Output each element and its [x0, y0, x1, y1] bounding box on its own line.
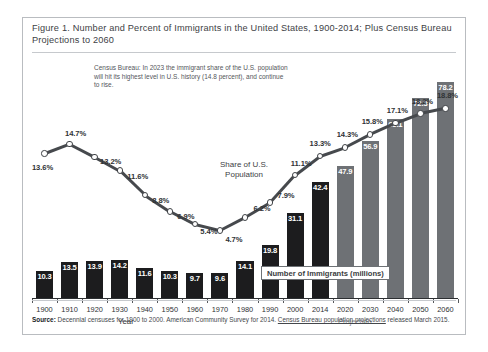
pct-label-2030: 15.8% — [362, 117, 383, 126]
x-label-1970: 1970 — [212, 305, 228, 314]
line-point-2020 — [342, 144, 348, 150]
bar-value-2030: 56.9 — [363, 142, 377, 151]
bar-value-2020: 47.9 — [338, 167, 352, 176]
pct-label-1910: 14.7% — [65, 128, 86, 137]
x-label-1910: 1910 — [61, 305, 77, 314]
bar-1950: 10.3 — [160, 270, 179, 299]
line-point-2000 — [292, 172, 298, 178]
line-point-2050 — [417, 110, 423, 116]
chart-plot-area: Census Bureau: In 2023 the immigrant sha… — [32, 56, 458, 299]
line-point-1900 — [41, 150, 47, 156]
pct-label-2060: 18.8% — [437, 91, 458, 100]
source-note: Source: Decennial censuses for 1900 to 2… — [32, 316, 456, 325]
line-point-1960 — [192, 221, 198, 227]
x-label-1930: 1930 — [111, 305, 127, 314]
share-of-population-label: Share of U.S. Population — [208, 160, 280, 180]
line-point-1990 — [267, 199, 273, 205]
x-label-2020: 2020 — [337, 305, 353, 314]
bar-value-2000: 31.1 — [288, 214, 302, 223]
bar-value-1940: 11.6 — [138, 269, 152, 278]
pct-label-1930: 11.6% — [127, 171, 148, 180]
bar-value-1980: 14.1 — [238, 262, 252, 271]
bar-2000: 31.1 — [286, 212, 305, 299]
line-point-2014 — [317, 153, 323, 159]
legend-number-of-immigrants: Number of Immigrants (millions) — [261, 266, 390, 280]
x-axis-line — [32, 298, 458, 299]
bar-2050: 72.3 — [411, 97, 430, 299]
line-point-2060 — [442, 105, 448, 111]
bar-value-1950: 10.3 — [163, 272, 177, 281]
x-label-2040: 2040 — [387, 305, 403, 314]
figure-container: Figure 1. Number and Percent of Immigran… — [22, 17, 466, 335]
source-divider — [32, 300, 456, 301]
line-point-1950 — [167, 208, 173, 214]
pct-label-1940: 8.8% — [152, 195, 169, 204]
x-label-1950: 1950 — [162, 305, 178, 314]
bar-1900: 10.3 — [35, 270, 54, 299]
pct-label-1990: 7.9% — [278, 190, 295, 199]
line-point-1970 — [217, 227, 223, 233]
figure-title: Figure 1. Number and Percent of Immigran… — [32, 23, 456, 46]
bar-value-1930: 14.2 — [113, 261, 127, 270]
bar-1970: 9.6 — [210, 272, 229, 299]
line-point-1920 — [91, 154, 97, 160]
x-label-1980: 1980 — [237, 305, 253, 314]
bar-1940: 11.6 — [135, 267, 154, 299]
census-bureau-annotation: Census Bureau: In 2023 the immigrant sha… — [94, 64, 290, 90]
x-label-1900: 1900 — [36, 305, 52, 314]
pct-label-2014: 13.3% — [310, 138, 331, 147]
x-label-2050: 2050 — [412, 305, 428, 314]
bar-2014: 42.4 — [311, 181, 330, 299]
bar-1920: 13.9 — [85, 260, 104, 299]
bar-value-1960: 9.7 — [190, 274, 200, 283]
x-tick-end — [458, 299, 459, 303]
x-label-2014: 2014 — [312, 305, 328, 314]
pct-label-1900: 13.6% — [32, 163, 53, 172]
x-label-1920: 1920 — [86, 305, 102, 314]
pct-label-2020: 14.3% — [337, 130, 358, 139]
bar-value-1920: 13.9 — [88, 262, 102, 271]
bar-1930: 14.2 — [110, 259, 129, 299]
x-label-2030: 2030 — [362, 305, 378, 314]
title-divider — [32, 52, 456, 53]
pct-label-2040: 17.1% — [387, 106, 408, 115]
source-text: Decennial censuses for 1900 to 2000. Ame… — [56, 316, 278, 323]
bar-value-1990: 19.8 — [263, 246, 277, 255]
source-suffix: released March 2015. — [386, 316, 450, 323]
pct-label-2000: 11.1% — [291, 158, 312, 167]
source-link[interactable]: Census Bureau population projections — [278, 316, 386, 323]
pct-label-1920: 13.2% — [100, 156, 121, 165]
pct-label-1950: 6.9% — [177, 212, 194, 221]
x-label-2000: 2000 — [287, 305, 303, 314]
bar-value-2014: 42.4 — [313, 183, 327, 192]
bar-value-1970: 9.6 — [215, 274, 225, 283]
source-prefix: Source: — [32, 316, 56, 323]
pct-label-2050: 18.2% — [412, 96, 433, 105]
x-label-2060: 2060 — [437, 305, 453, 314]
pct-label-1970: 4.7% — [225, 235, 242, 244]
x-label-1990: 1990 — [262, 305, 278, 314]
line-point-2030 — [367, 131, 373, 137]
line-point-1930 — [117, 167, 123, 173]
line-point-2040 — [392, 120, 398, 126]
bar-value-1910: 13.5 — [62, 263, 76, 272]
line-point-1940 — [142, 192, 148, 198]
bar-1910: 13.5 — [60, 261, 79, 299]
x-label-1940: 1940 — [137, 305, 153, 314]
x-label-1960: 1960 — [187, 305, 203, 314]
bar-1980: 14.1 — [235, 260, 254, 299]
line-point-1980 — [242, 214, 248, 220]
bar-1960: 9.7 — [185, 272, 204, 299]
bar-2060: 78.2 — [436, 81, 455, 299]
bar-value-1900: 10.3 — [37, 272, 51, 281]
line-point-1910 — [66, 141, 72, 147]
pct-label-1960: 5.4% — [200, 227, 217, 236]
